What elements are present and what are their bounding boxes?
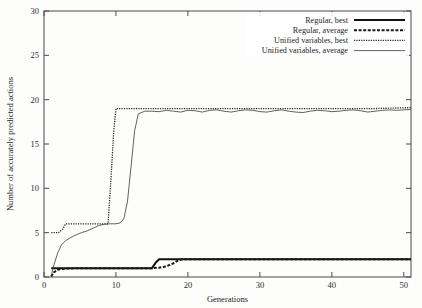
- y-tick-label: 15: [31, 139, 40, 149]
- series-line-3: [51, 109, 411, 276]
- x-tick-label: 40: [328, 280, 337, 290]
- y-tick-label: 30: [31, 6, 40, 16]
- series-line-0: [51, 259, 411, 268]
- y-tick-label: 25: [31, 50, 40, 60]
- y-tick-label: 20: [31, 95, 40, 105]
- x-tick-label: 20: [184, 280, 193, 290]
- chart-legend: Regular, bestRegular, averageUnified var…: [246, 12, 409, 57]
- series-lines: [51, 108, 411, 277]
- y-tick-label: 5: [35, 228, 39, 238]
- y-axis-title: Number of accurately predicted actions: [5, 77, 15, 211]
- legend-label-3: Unified variables, average: [262, 46, 349, 55]
- x-tick-label: 30: [256, 280, 265, 290]
- series-line-2: [51, 108, 411, 233]
- x-tick-label: 0: [42, 280, 46, 290]
- series-line-1: [51, 259, 411, 276]
- legend-label-1: Regular, average: [293, 26, 348, 35]
- legend-label-0: Regular, best: [305, 16, 349, 25]
- y-tick-label: 0: [35, 272, 39, 282]
- legend-label-2: Unified variables, best: [274, 36, 349, 45]
- x-axis-title: Generations: [207, 294, 248, 304]
- x-tick-label: 10: [112, 280, 121, 290]
- y-tick-label: 10: [31, 183, 40, 193]
- line-chart: 051015202530 01020304050 Regular, bestRe…: [0, 0, 422, 308]
- chart-figure: 051015202530 01020304050 Regular, bestRe…: [0, 0, 422, 308]
- x-tick-label: 50: [400, 280, 409, 290]
